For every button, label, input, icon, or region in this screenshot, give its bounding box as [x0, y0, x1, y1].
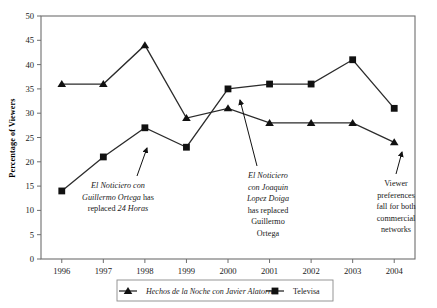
y-tick-label: 10	[25, 205, 34, 215]
x-tick-label-2003: 2003	[344, 266, 361, 276]
annotation-ortega-leader-line	[137, 148, 147, 176]
annotation-ortega-line-3: replaced 24 Horas	[88, 204, 149, 213]
chart-legend: Hechos de la Noche con Javier AlatorreTe…	[117, 280, 333, 301]
series-line	[62, 45, 394, 142]
annotation-viewer-preferences: Viewerpreferencesfall for bothcommercial…	[376, 179, 416, 234]
annotation-ortega-line-2: Guillermo Ortega has	[82, 193, 154, 202]
data-point-square	[391, 105, 398, 112]
x-tick-label-1996: 1996	[53, 266, 71, 276]
series-1	[57, 41, 398, 145]
x-tick-label-1997: 1997	[95, 266, 113, 276]
y-tick-label: 30	[25, 108, 34, 118]
annotation-viewer-preferences-line-5: networks	[381, 225, 411, 234]
annotation-lopez-doiga-line-3: Lopez Doiga	[246, 194, 289, 203]
annotation-viewer-preferences-leader-line	[396, 152, 402, 174]
annotation-viewer-preferences-line-3: fall for both	[376, 202, 415, 211]
annotation-ortega: El Noticiero conGuillermo Ortega hasrepl…	[82, 181, 154, 213]
y-tick-label: 0	[30, 254, 34, 264]
data-point-square	[100, 154, 107, 161]
legend-label-1: Hechos de la Noche con Javier Alatorre	[145, 287, 275, 296]
x-tick-label-2001: 2001	[261, 266, 278, 276]
data-point-square	[349, 56, 356, 63]
annotation-ortega-line-1: El Noticiero con	[90, 181, 145, 190]
annotation-viewer-preferences-line-2: preferences	[377, 191, 415, 200]
legend-label-2: Televisa	[293, 287, 320, 296]
annotation-viewer-preferences-line-4: commercial	[377, 214, 416, 223]
y-tick-label: 40	[25, 60, 34, 70]
annotation-lopez-doiga-line-1: El Noticiero	[247, 171, 288, 180]
annotation-viewer-preferences-line-1: Viewer	[384, 179, 408, 188]
annotation-lopez-doiga: El Noticierocon JoaquinLopez Doigahas re…	[246, 171, 289, 238]
series-2	[58, 56, 397, 194]
x-tick-label-1999: 1999	[178, 266, 195, 276]
annotation-lopez-doiga-leader-line	[240, 100, 257, 166]
data-point-square	[58, 188, 65, 195]
data-point-square	[225, 86, 232, 93]
annotation-leader-lines	[137, 100, 402, 176]
x-tick-label-2004: 2004	[386, 266, 404, 276]
data-point-square	[308, 81, 315, 88]
x-tick-label-1998: 1998	[136, 266, 153, 276]
y-axis-title: Percentage of Viewers	[8, 98, 17, 177]
data-point-triangle	[224, 104, 233, 111]
annotation-text-layer: El Noticiero conGuillermo Ortega hasrepl…	[82, 171, 416, 238]
y-tick-label: 25	[25, 133, 34, 143]
series-layer	[57, 41, 398, 194]
y-tick-label: 15	[25, 181, 34, 191]
y-tick-label: 45	[25, 35, 34, 45]
data-point-triangle	[141, 41, 150, 48]
y-tick-label: 50	[25, 11, 34, 21]
data-point-square	[141, 124, 148, 131]
y-tick-label: 20	[25, 157, 34, 167]
annotation-lopez-doiga-line-6: Ortega	[257, 229, 280, 238]
data-point-square	[183, 144, 190, 151]
x-axis: 199619971998199920002001200220032004	[53, 259, 403, 276]
data-point-square	[272, 288, 279, 295]
annotation-lopez-doiga-line-4: has replaced	[248, 206, 289, 215]
series-line	[62, 60, 394, 191]
data-point-triangle	[390, 138, 399, 145]
data-point-square	[266, 81, 273, 88]
y-tick-label: 35	[25, 84, 34, 94]
y-axis: 05101520253035404550	[25, 11, 41, 264]
x-tick-label-2000: 2000	[219, 266, 236, 276]
y-tick-label: 5	[30, 230, 34, 240]
annotation-lopez-doiga-line-5: Guillermo	[251, 217, 285, 226]
plot-frame	[41, 16, 415, 259]
x-tick-label-2002: 2002	[303, 266, 320, 276]
viewer-percentage-line-chart: 05101520253035404550 1996199719981999200…	[0, 0, 437, 308]
chart-figure: 05101520253035404550 1996199719981999200…	[0, 0, 437, 308]
annotation-lopez-doiga-line-2: con Joaquin	[248, 183, 288, 192]
